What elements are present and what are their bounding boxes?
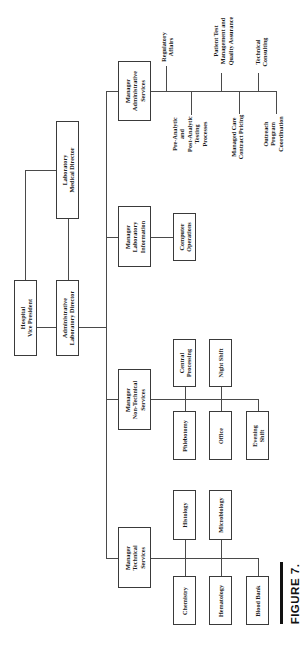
outreach-label: OutreachProgramCoordination <box>258 114 288 154</box>
connector-line <box>25 170 56 171</box>
computer-operations-box: ComputerOperations <box>173 213 196 261</box>
office-box: Office <box>209 411 232 460</box>
connector-line <box>221 540 222 576</box>
connector-line <box>106 399 118 400</box>
lab-medical-director-box: LaboratoryMedical Director <box>56 121 79 219</box>
connector-line <box>258 558 259 576</box>
technical-consulting-label: TechnicalConsulting <box>250 33 272 71</box>
central-processing-box: CentralProcessing <box>173 339 196 387</box>
hematology-box: Hematology <box>209 576 232 625</box>
trunk-line <box>106 91 107 559</box>
chemistry-box: Chemistry <box>173 576 196 625</box>
connector-line <box>106 558 118 559</box>
connector-line <box>151 91 276 92</box>
connector-line <box>185 540 186 576</box>
connector-line <box>239 91 240 114</box>
figure-caption: FIGURE 7. <box>289 564 301 625</box>
manager-non-technical-box: ManagerNon-TechnicalServices <box>118 369 151 430</box>
evening-shift-box: EveningShift <box>246 411 269 460</box>
connector-line <box>106 237 118 238</box>
connector-line <box>151 237 173 238</box>
connector-line <box>151 399 259 400</box>
connector-line <box>25 170 26 280</box>
night-shift-box: Night Shift <box>209 339 232 387</box>
pre-post-analytic-label: Pre-AnalyticandPost-AnalyticTestingProce… <box>168 113 212 155</box>
connector-line <box>36 327 56 328</box>
connector-line <box>106 91 118 92</box>
connector-line <box>151 558 259 559</box>
microbiology-box: Microbiology <box>209 490 232 540</box>
connector-line <box>191 91 192 115</box>
blood-bank-box: Blood Bank <box>246 576 269 625</box>
managed-care-label: Managed CareContract Pricing <box>225 114 249 159</box>
admin-lab-director-box: AdministrativeLaboratory Director <box>56 280 79 356</box>
connector-line <box>258 73 259 91</box>
connector-line <box>258 399 259 411</box>
connector-line <box>79 327 106 328</box>
connector-line <box>221 387 222 411</box>
patient-test-qa-label: Patient TestManagement andQuality Assura… <box>208 10 238 72</box>
hospital-vp-box: HospitalVice President <box>14 280 37 356</box>
manager-lab-information-box: ManagerLaboratoryInformation <box>118 206 151 267</box>
manager-administrative-box: ManagerAdministrativeServices <box>118 61 151 121</box>
connector-line <box>221 73 222 91</box>
histology-box: Histology <box>173 490 196 540</box>
figure-caption-bar <box>280 562 283 624</box>
manager-technical-box: ManagerTechnicalServices <box>118 527 151 588</box>
phlebotomy-box: Phlebotomy <box>173 411 196 460</box>
connector-line <box>276 91 277 114</box>
connector-line <box>166 66 167 91</box>
connector-line <box>68 219 69 280</box>
regulatory-affairs-label: RegulatoryAffairs <box>155 28 179 66</box>
connector-line <box>185 387 186 411</box>
